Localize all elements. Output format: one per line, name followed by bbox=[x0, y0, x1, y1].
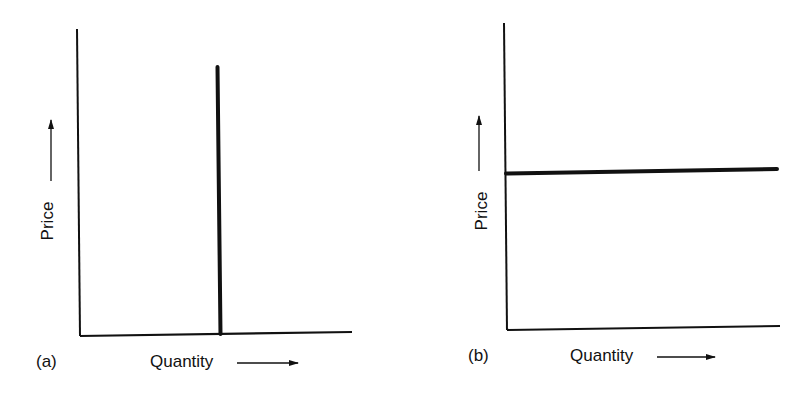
panel-b-x-axis bbox=[507, 326, 780, 330]
panel-a-label: (a) bbox=[36, 352, 57, 372]
diagram-canvas bbox=[0, 0, 803, 399]
panel-b-y-axis bbox=[504, 23, 507, 330]
panel-b-label: (b) bbox=[468, 346, 489, 366]
panel-b-horizontal-curve bbox=[506, 169, 777, 174]
panel-a-vertical-curve bbox=[218, 67, 221, 334]
panel-a-y-axis bbox=[77, 29, 80, 336]
panel-a-x-axis-label: Quantity bbox=[150, 352, 213, 372]
panel-b-y-axis-label: Price bbox=[472, 188, 492, 234]
panel-a bbox=[51, 29, 352, 363]
panel-b-x-axis-label: Quantity bbox=[570, 346, 633, 366]
panel-a-x-axis bbox=[80, 332, 352, 336]
panel-a-y-axis-label: Price bbox=[38, 198, 58, 244]
panel-b bbox=[479, 23, 780, 357]
